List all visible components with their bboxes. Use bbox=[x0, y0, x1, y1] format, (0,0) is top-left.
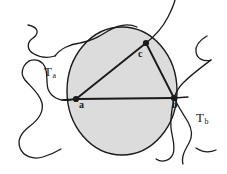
region-label-Tb-subscript: b bbox=[204, 117, 209, 126]
curve-right-to-b-upper bbox=[174, 60, 211, 98]
region-label-Ta-base: T bbox=[44, 64, 52, 79]
vertex-label-c: c bbox=[138, 49, 142, 59]
vertex-label-a: a bbox=[79, 100, 84, 110]
curve-right-hook-upper bbox=[196, 36, 211, 61]
region-label-Ta: Ta bbox=[44, 65, 56, 80]
curve-left-upper-squiggle bbox=[28, 25, 55, 57]
region-label-Ta-subscript: a bbox=[52, 71, 56, 80]
region-label-Tb: Tb bbox=[196, 111, 208, 126]
figure-canvas: Ta Tb a b c bbox=[0, 0, 227, 174]
curve-bottom-right-arc bbox=[196, 148, 216, 152]
diagram-svg bbox=[0, 0, 227, 174]
triangle-edge-ab bbox=[76, 98, 174, 99]
region-label-Tb-base: T bbox=[196, 110, 204, 125]
shaded-disk bbox=[67, 27, 177, 155]
vertex-label-b: b bbox=[172, 100, 178, 110]
vertex-dot-c bbox=[143, 40, 149, 46]
